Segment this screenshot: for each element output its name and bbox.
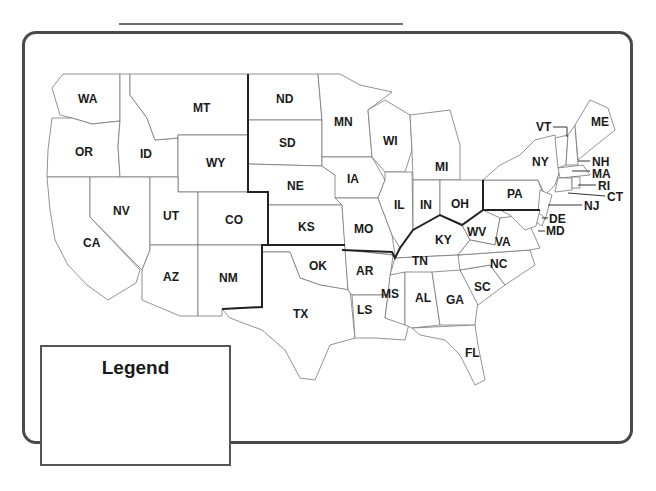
label-MO: MO xyxy=(354,222,373,236)
label-OK: OK xyxy=(309,259,327,273)
label-NC: NC xyxy=(490,257,508,271)
label-VA: VA xyxy=(495,235,511,249)
label-MN: MN xyxy=(334,115,353,129)
label-NJ: NJ xyxy=(584,199,599,213)
label-NE: NE xyxy=(287,179,304,193)
label-MD: MD xyxy=(546,224,565,238)
label-MT: MT xyxy=(193,101,211,115)
label-CO: CO xyxy=(225,213,243,227)
label-IL: IL xyxy=(394,198,405,212)
label-ND: ND xyxy=(276,92,294,106)
label-UT: UT xyxy=(163,209,180,223)
label-NV: NV xyxy=(113,204,130,218)
label-AZ: AZ xyxy=(163,270,179,284)
label-MI: MI xyxy=(435,160,448,174)
label-KY: KY xyxy=(435,233,452,247)
label-TN: TN xyxy=(412,254,428,268)
label-IA: IA xyxy=(347,172,359,186)
label-TX: TX xyxy=(293,307,308,321)
label-ID: ID xyxy=(140,147,152,161)
label-AR: AR xyxy=(356,264,374,278)
label-NM: NM xyxy=(219,271,238,285)
label-ME: ME xyxy=(591,115,609,129)
legend-title: Legend xyxy=(42,357,229,379)
label-CA: CA xyxy=(83,236,101,250)
state-RI[interactable] xyxy=(572,177,580,188)
label-VT: VT xyxy=(536,120,552,134)
label-WV: WV xyxy=(467,225,486,239)
state-ME[interactable] xyxy=(575,100,615,160)
label-PA: PA xyxy=(507,187,523,201)
label-GA: GA xyxy=(446,293,464,307)
legend-box: Legend xyxy=(40,345,231,466)
label-WI: WI xyxy=(383,134,398,148)
label-MS: MS xyxy=(381,287,399,301)
label-LS: LS xyxy=(357,303,372,317)
label-KS: KS xyxy=(298,220,315,234)
label-NY: NY xyxy=(532,155,549,169)
label-CT: CT xyxy=(607,190,624,204)
label-OH: OH xyxy=(451,197,469,211)
label-WY: WY xyxy=(206,156,225,170)
label-IN: IN xyxy=(420,198,432,212)
label-AL: AL xyxy=(415,291,431,305)
label-SC: SC xyxy=(474,280,491,294)
label-OR: OR xyxy=(75,145,93,159)
label-WA: WA xyxy=(78,92,98,106)
label-FL: FL xyxy=(465,346,480,360)
state-CT[interactable] xyxy=(555,178,572,192)
label-SD: SD xyxy=(279,136,296,150)
